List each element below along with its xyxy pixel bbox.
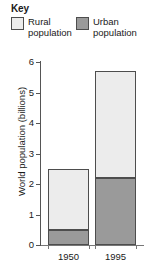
y-axis-tick-label: 5 [8,88,34,97]
y-axis-tick [36,123,41,124]
x-axis-tick-label: 1995 [95,251,137,262]
x-axis-tick [48,245,49,249]
y-axis-label: World population (billions) [16,62,27,222]
world-population-bar-chart: Key Ruralpopulation Urbanpopulation Worl… [0,0,146,267]
bar-segment-urban [95,178,136,245]
stacked-bar [95,46,136,245]
bar-segment-rural [48,169,89,230]
bar-segment-urban [48,230,89,245]
y-axis-tick [36,62,41,63]
legend-title: Key [11,3,29,14]
stacked-bar [48,46,89,245]
legend-swatch-urban-icon [76,17,89,30]
x-axis-tick [95,245,96,249]
legend-label-urban: Urbanpopulation [93,16,146,38]
y-axis-tick-label: 0 [8,240,34,249]
legend-swatch-rural-icon [11,17,24,30]
plot-area: World population (billions) 0123456 1950… [0,46,146,267]
y-axis-tick [36,215,41,216]
y-axis-tick-label: 4 [8,118,34,127]
legend-label-rural: Ruralpopulation [28,16,80,38]
chart-legend: Key Ruralpopulation Urbanpopulation [0,0,146,46]
y-axis-tick [36,93,41,94]
bar-segment-rural [95,71,136,178]
y-axis-tick-label: 2 [8,179,34,188]
x-axis-line [40,245,144,246]
y-axis-tick-label: 1 [8,210,34,219]
y-axis-tick [36,184,41,185]
x-axis-tick [136,245,137,249]
y-axis-tick-label: 3 [8,149,34,158]
x-axis-tick [89,245,90,249]
x-axis-tick-label: 1950 [48,251,90,262]
y-axis-tick [36,245,41,246]
y-axis-tick [36,154,41,155]
y-axis-tick-label: 6 [8,57,34,66]
